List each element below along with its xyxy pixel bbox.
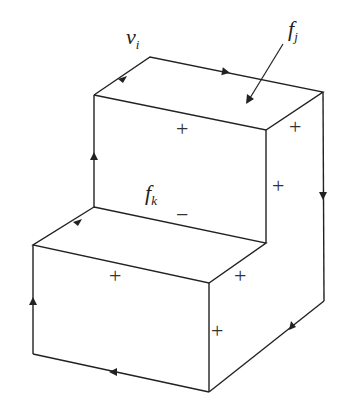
arrow-icon <box>90 152 98 160</box>
sign-top-right: + <box>289 114 301 139</box>
sign-upper-side: + <box>272 173 284 198</box>
face-pointer-arrow-icon <box>246 94 254 104</box>
arrow-icon <box>289 321 296 330</box>
vertex-label: vi <box>126 24 140 52</box>
arrow-icon <box>319 192 327 200</box>
arrow-icon <box>221 67 230 76</box>
staircase-diagram: vi fj fk + + + − + + + <box>0 0 344 407</box>
sign-inner-riser: − <box>176 202 188 227</box>
face-j-label: fj <box>288 16 298 44</box>
sign-top-face: + <box>176 116 188 141</box>
face-pointer-line <box>250 44 283 98</box>
face-k-label: fk <box>145 180 157 208</box>
sign-lower-right-top: + <box>234 263 246 288</box>
sign-lower-top: + <box>109 263 121 288</box>
arrow-icon <box>29 297 37 305</box>
arrow-icon <box>109 368 117 376</box>
sign-front-right: + <box>211 318 223 343</box>
